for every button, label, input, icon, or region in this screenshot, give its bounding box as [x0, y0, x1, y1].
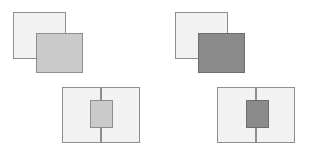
center-square-dark-gray: [246, 100, 269, 128]
center-square-light-gray: [90, 100, 113, 128]
foreground-square-dark-gray: [198, 33, 245, 73]
panel-centered-inset-dark: [156, 76, 313, 152]
foreground-square-light-gray: [36, 33, 83, 73]
figure-canvas: [0, 0, 313, 152]
panel-centered-inset-light: [0, 76, 156, 152]
panel-offset-overlap-dark: [156, 0, 313, 76]
panel-offset-overlap-light: [0, 0, 156, 76]
